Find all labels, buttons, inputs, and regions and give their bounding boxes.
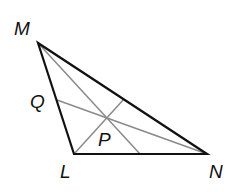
label-m: M xyxy=(14,18,30,39)
triangle-diagram: M Q P L N xyxy=(0,0,233,192)
triangle-mln xyxy=(38,43,207,154)
label-l: L xyxy=(60,161,71,182)
label-q: Q xyxy=(30,91,45,112)
label-p: P xyxy=(98,129,111,150)
label-n: N xyxy=(209,161,223,182)
